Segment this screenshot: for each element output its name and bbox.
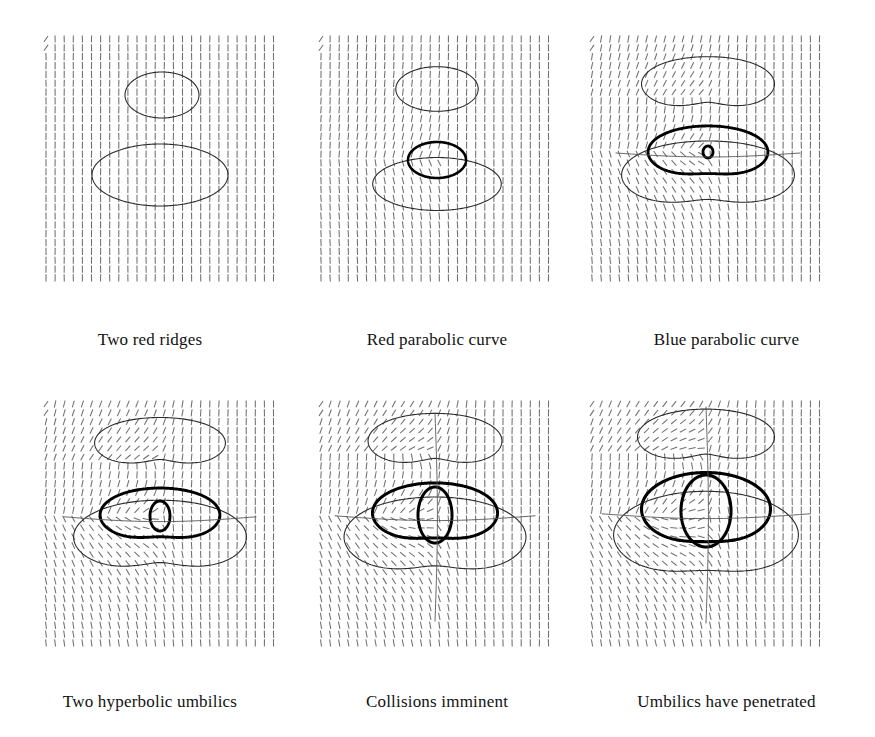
line-field — [44, 400, 274, 646]
panel-two-hyperbolic-umbilics — [40, 397, 292, 655]
caption-panel-1: Two red ridges — [0, 330, 300, 350]
vertical-separatrix-curve — [706, 407, 708, 623]
line-field — [319, 400, 549, 646]
panel-3-canvas — [586, 32, 838, 290]
upper-red-ridge-curve — [125, 72, 199, 118]
caption-panel-6: Umbilics have penetrated — [578, 692, 875, 712]
panel-5-canvas — [315, 397, 567, 655]
panel-two-red-ridges — [40, 32, 292, 290]
line-field — [590, 35, 820, 281]
panel-1-canvas — [40, 32, 292, 290]
blue-parabolic-curve-curve — [648, 126, 768, 174]
panel-red-parabolic-curve — [315, 32, 567, 290]
blue-parabolic-curve-curve — [372, 483, 497, 538]
caption-panel-4: Two hyperbolic umbilics — [0, 692, 300, 712]
caption-panel-2: Red parabolic curve — [292, 330, 582, 350]
lower-red-ridge-curve — [344, 497, 526, 569]
line-field — [590, 400, 820, 646]
horizontal-separatrix-curve — [335, 516, 535, 521]
horizontal-separatrix-curve — [616, 153, 800, 157]
upper-red-ridge-curve — [396, 67, 478, 112]
upper-red-ridge-curve — [642, 57, 775, 106]
panel-collisions-imminent — [315, 397, 567, 655]
blue-parabolic-curve-curve — [642, 473, 771, 542]
horizontal-separatrix-curve — [602, 514, 810, 519]
umbilic-pair-curve — [703, 146, 713, 158]
umbilic-figure: Two red ridges Red parabolic curve Blue … — [0, 0, 875, 737]
umbilic-pair-curve — [681, 475, 731, 547]
panel-4-canvas — [40, 397, 292, 655]
umbilic-pair-curve — [418, 487, 452, 543]
vertical-separatrix-curve — [435, 413, 437, 621]
umbilic-pair-curve — [150, 501, 170, 531]
upper-red-ridge-curve — [95, 418, 226, 464]
panel-6-canvas — [586, 397, 838, 655]
lower-red-ridge-curve — [373, 158, 502, 211]
caption-panel-3: Blue parabolic curve — [578, 330, 875, 350]
panel-umbilics-have-penetrated — [586, 397, 838, 655]
panel-blue-parabolic-curve — [586, 32, 838, 290]
caption-panel-5: Collisions imminent — [292, 692, 582, 712]
line-field — [319, 35, 549, 281]
lower-red-ridge-curve — [92, 144, 228, 206]
panel-2-canvas — [315, 32, 567, 290]
